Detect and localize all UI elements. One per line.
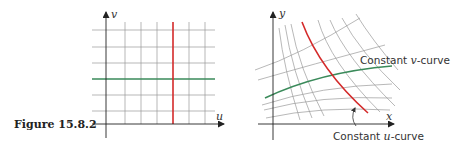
constant-u-curve-label: Constant u-curve <box>333 130 424 143</box>
constant-v-curve-label: Constant v-curve <box>360 54 450 67</box>
uv-grid <box>92 22 215 124</box>
x-axis-label: x <box>386 110 393 123</box>
y-axis-label: y <box>278 7 286 20</box>
u-curve-pointer-arrow <box>353 108 356 126</box>
uv-plane-panel: v u <box>92 8 224 138</box>
constant-u-curve <box>302 22 368 113</box>
v-axis-label: v <box>111 8 118 21</box>
u-axis-label: u <box>216 110 223 123</box>
figure-caption: Figure 15.8.2 <box>14 118 97 131</box>
xy-plane-panel: y x Constant v-curve Constant u-curve <box>255 7 450 143</box>
